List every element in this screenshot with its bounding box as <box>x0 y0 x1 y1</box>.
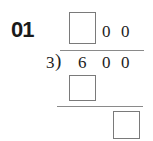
quotient-tens-digit: 0 <box>102 23 111 40</box>
product-answer-box[interactable] <box>69 75 96 101</box>
division-bar <box>60 50 144 51</box>
quotient-hundreds-answer-box[interactable] <box>69 12 96 44</box>
remainder-answer-box[interactable] <box>113 111 140 139</box>
subtraction-line <box>57 106 143 107</box>
dividend-tens-digit: 0 <box>102 54 111 71</box>
question-number: 01 <box>11 17 33 43</box>
quotient-ones-digit: 0 <box>121 23 130 40</box>
dividend-hundreds-digit: 6 <box>78 54 87 71</box>
divisor: 3 <box>46 54 55 71</box>
dividend-ones-digit: 0 <box>121 54 130 71</box>
division-bracket: ) <box>55 51 61 70</box>
